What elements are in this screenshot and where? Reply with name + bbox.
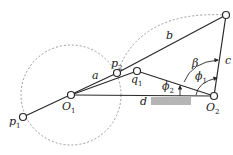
label-O1: O1 [62,101,76,115]
label-phi1: ϕ1 [195,71,207,85]
label-b: b [166,30,173,41]
joint-O1 [68,92,75,99]
link-a-q [71,71,137,95]
joint-top [223,12,230,19]
label-phi2: ϕ2 [162,81,174,95]
label-O2: O2 [206,102,220,116]
label-a: a [92,70,99,81]
label-p1: p1 [9,116,21,130]
label-c: c [225,55,231,66]
linkage-diagram: O1 O2 p1 p2 q1 a b c d β ϕ1 ϕ2 [0,0,233,155]
joint-O2 [211,93,218,100]
ground-block [151,97,191,105]
label-p2: p2 [111,58,123,72]
label-beta: β [192,58,198,69]
label-d: d [140,96,147,107]
joint-p1 [20,114,27,121]
label-q1: q1 [131,74,143,88]
